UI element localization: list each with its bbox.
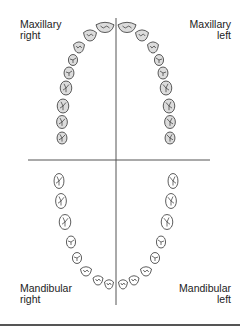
label-maxillary-right: Maxillary right [20,19,61,41]
upper-left-molar-tooth-8 [165,116,176,129]
lower-right-premolar-tooth-4 [66,236,75,248]
label-mandibular-left: Mandibular left [179,283,231,305]
lower-right-canine-tooth-6 [81,267,92,276]
upper-left-molar-tooth-9 [165,132,175,144]
upper-left-incisor-tooth-1 [118,22,136,32]
label-line-2: left [179,294,231,305]
lower-left-molar-tooth-1 [168,174,178,189]
lower-left-molar-tooth-2 [166,194,177,209]
label-line-2: right [20,294,72,305]
upper-right-molar-tooth-8 [57,116,68,129]
label-mandibular-right: Mandibular right [20,283,72,305]
upper-right-molar-tooth-9 [57,132,67,144]
lower-left-incisor-tooth-7 [129,276,139,285]
lower-left-premolar-tooth-4 [156,236,165,248]
lower-left-incisor-tooth-8 [119,280,128,289]
lower-left-premolar-tooth-5 [150,253,159,264]
lower-left-molar-tooth-3 [161,215,173,230]
lower-right-molar-tooth-3 [59,215,71,230]
upper-left-canine-tooth-3 [148,42,159,53]
lower-right-incisor-tooth-8 [105,280,114,289]
lower-right-molar-tooth-1 [54,174,64,189]
upper-right-incisor-tooth-2 [84,30,97,41]
upper-right-premolar-tooth-5 [64,67,74,79]
label-line-2: left [190,30,231,41]
dental-arch-diagram [0,0,240,329]
label-maxillary-left: Maxillary left [190,19,231,41]
label-line-2: right [20,30,61,41]
upper-left-premolar-tooth-4 [154,55,163,66]
upper-left-premolar-tooth-5 [158,67,168,79]
upper-right-molar-tooth-6 [60,81,72,95]
upper-left-molar-tooth-6 [160,81,172,95]
lower-right-molar-tooth-2 [56,194,67,209]
upper-right-premolar-tooth-4 [68,55,77,66]
upper-left-molar-tooth-7 [163,99,175,113]
upper-right-molar-tooth-7 [57,99,69,113]
upper-right-canine-tooth-3 [74,42,85,53]
lower-right-premolar-tooth-5 [72,253,81,264]
upper-right-incisor-tooth-1 [96,22,114,32]
lower-left-canine-tooth-6 [141,267,152,276]
bottom-rule [0,324,240,326]
lower-right-incisor-tooth-7 [93,276,103,285]
upper-left-incisor-tooth-2 [136,30,149,41]
